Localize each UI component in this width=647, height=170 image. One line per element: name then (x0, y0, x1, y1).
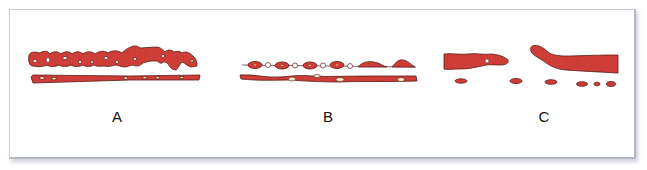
panel-a-lower-layer (31, 75, 200, 83)
panel-c-left-fragment (444, 54, 508, 70)
diagram-artwork (0, 0, 647, 170)
panel-a-upper-layer (29, 46, 197, 70)
panel-a-label: A (112, 108, 122, 125)
panel-a-illustration (29, 46, 200, 83)
panel-c-right-fragment (531, 45, 618, 73)
panel-c-illustration (444, 45, 618, 86)
panel-c-label: C (539, 108, 550, 125)
panel-b-illustration (240, 60, 417, 82)
panel-b-label: B (323, 108, 333, 125)
